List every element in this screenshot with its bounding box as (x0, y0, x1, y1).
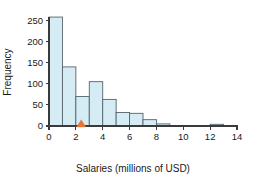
y-tick-label-0: 0 (38, 120, 43, 131)
bar-7-8 (143, 120, 156, 126)
chart-canvas: 050100150200250 02468101214 Salaries (mi… (0, 0, 263, 177)
x-tick-label-10: 10 (178, 131, 189, 142)
bars-group (49, 17, 237, 126)
x-tick-label-12: 12 (205, 131, 216, 142)
x-axis-ticks: 02468101214 (46, 126, 242, 142)
y-axis-ticks: 050100150200250 (27, 15, 49, 132)
bar-5-6 (116, 112, 129, 126)
y-tick-label-50: 50 (32, 99, 43, 110)
bar-0-1 (49, 17, 62, 126)
x-tick-label-4: 4 (100, 131, 105, 142)
bar-1-2 (62, 67, 75, 126)
x-tick-label-0: 0 (46, 131, 51, 142)
x-tick-label-14: 14 (232, 131, 243, 142)
x-tick-label-8: 8 (154, 131, 159, 142)
y-axis-title: Frequency (2, 48, 13, 95)
x-tick-label-6: 6 (127, 131, 132, 142)
y-tick-label-100: 100 (27, 78, 43, 89)
bar-4-5 (103, 99, 116, 126)
y-tick-label-250: 250 (27, 15, 43, 26)
x-tick-label-2: 2 (73, 131, 78, 142)
bar-6-7 (130, 113, 143, 126)
y-tick-label-200: 200 (27, 36, 43, 47)
x-axis-title: Salaries (millions of USD) (76, 163, 190, 174)
bar-3-4 (89, 82, 102, 126)
histogram-figure: 050100150200250 02468101214 Salaries (mi… (0, 0, 263, 177)
y-tick-label-150: 150 (27, 57, 43, 68)
